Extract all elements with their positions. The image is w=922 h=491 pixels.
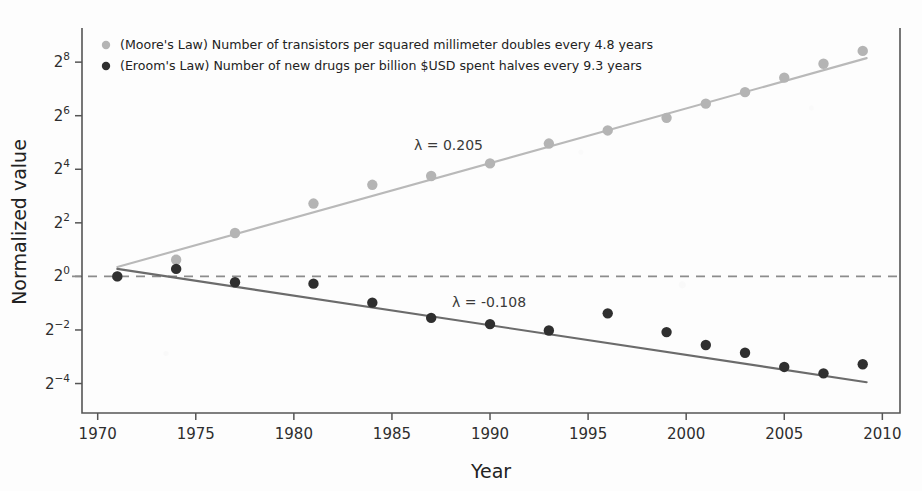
legend-marker-moores-law: [102, 41, 110, 49]
legend-label-erooms-law: (Eroom's Law) Number of new drugs per bi…: [120, 58, 642, 73]
axes-group: 1970197519801985199019952000200520102826…: [45, 28, 901, 443]
y-tick-label: 20: [54, 264, 70, 285]
data-point-erooms-law: [171, 264, 181, 274]
data-point-moores-law: [661, 113, 671, 123]
data-point-moores-law: [367, 180, 377, 190]
lambda-annotation-moores-law: λ = 0.205: [414, 137, 483, 153]
y-tick-label: 24: [54, 157, 71, 178]
data-point-erooms-law: [858, 359, 868, 369]
data-point-erooms-law: [112, 271, 122, 281]
data-point-erooms-law: [544, 325, 554, 335]
x-tick-label: 2000: [667, 425, 705, 443]
data-point-erooms-law: [779, 362, 789, 372]
x-tick-label: 1975: [177, 425, 215, 443]
data-point-erooms-law: [661, 327, 671, 337]
x-tick-label: 1970: [79, 425, 117, 443]
chart-canvas: 1970197519801985199019952000200520102826…: [0, 0, 922, 491]
x-axis-title: Year: [470, 460, 511, 482]
x-tick-label: 1995: [569, 425, 607, 443]
data-point-moores-law: [603, 125, 613, 135]
trendline-group: [117, 58, 866, 382]
data-point-moores-law: [485, 158, 495, 168]
legend-marker-erooms-law: [102, 62, 110, 70]
data-points-group: [112, 46, 868, 379]
data-point-moores-law: [740, 87, 750, 97]
x-tick-label: 2005: [765, 425, 803, 443]
data-point-erooms-law: [740, 348, 750, 358]
data-point-erooms-law: [308, 278, 318, 288]
data-point-moores-law: [779, 72, 789, 82]
data-point-erooms-law: [701, 340, 711, 350]
data-point-moores-law: [171, 255, 181, 265]
y-tick-label: 28: [54, 50, 70, 71]
data-point-erooms-law: [485, 319, 495, 329]
data-point-erooms-law: [367, 297, 377, 307]
x-tick-label: 1985: [373, 425, 411, 443]
y-tick-label: 2−4: [45, 372, 70, 393]
lambda-annotation-erooms-law: λ = -0.108: [452, 294, 526, 310]
plot-frame: [82, 28, 900, 413]
data-point-erooms-law: [426, 313, 436, 323]
data-point-erooms-law: [603, 308, 613, 318]
data-point-moores-law: [544, 138, 554, 148]
y-tick-label: 2−2: [45, 318, 70, 339]
data-point-moores-law: [426, 171, 436, 181]
y-axis-title: Normalized value: [8, 139, 30, 305]
x-tick-label: 2010: [863, 425, 901, 443]
data-point-moores-law: [818, 59, 828, 69]
data-point-erooms-law: [818, 368, 828, 378]
legend-label-moores-law: (Moore's Law) Number of transistors per …: [120, 37, 653, 52]
figure-root: 1970197519801985199019952000200520102826…: [0, 0, 922, 491]
y-tick-label: 22: [54, 211, 70, 232]
annotation-group: λ = 0.205λ = -0.108: [414, 137, 526, 310]
legend-group: (Moore's Law) Number of transistors per …: [102, 37, 653, 73]
data-point-moores-law: [858, 46, 868, 56]
data-point-moores-law: [701, 98, 711, 108]
data-point-erooms-law: [230, 277, 240, 287]
x-tick-label: 1980: [275, 425, 313, 443]
x-tick-label: 1990: [471, 425, 509, 443]
data-point-moores-law: [230, 228, 240, 238]
data-point-moores-law: [308, 198, 318, 208]
y-tick-label: 26: [54, 104, 71, 125]
